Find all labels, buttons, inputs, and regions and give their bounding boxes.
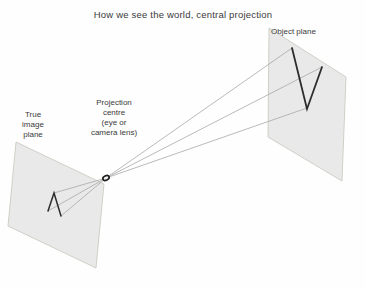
true-image-plane-label: True image plane (19, 110, 47, 140)
projection-centre-ellipse (102, 175, 110, 182)
object-plane-shape (268, 28, 346, 181)
projection-centre-label-line2: centre (81, 108, 147, 118)
true-image-plane-label-line2: image (19, 120, 47, 130)
projection-centre-label-line4: camera lens) (81, 128, 147, 138)
true-image-plane-shape (8, 142, 104, 268)
true-image-plane-label-line1: True (19, 110, 47, 120)
object-plane-label: Object plane (271, 27, 316, 37)
projection-centre-label: Projection centre (eye or camera lens) (81, 98, 147, 138)
projection-centre-label-line1: Projection (81, 98, 147, 108)
projection-centre-label-line3: (eye or (81, 118, 147, 128)
true-image-plane-label-line3: plane (19, 130, 47, 140)
diagram-canvas (0, 0, 366, 289)
diagram-title: How we see the world, central projection (0, 9, 366, 20)
central-projection-diagram: How we see the world, central projection… (0, 0, 366, 289)
